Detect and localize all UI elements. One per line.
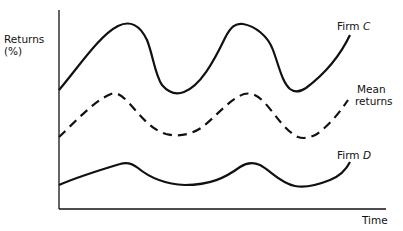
firm-c-label-prefix: Firm	[337, 20, 363, 32]
y-axis-label-line1: Returns	[4, 33, 44, 45]
firm-d-label-prefix: Firm	[337, 149, 363, 161]
mean-returns-label-line2: returns	[355, 95, 393, 107]
firm-d-label-letter: D	[363, 149, 371, 161]
firm-c-label-letter: C	[363, 20, 370, 32]
firm-c-label: Firm C	[337, 20, 370, 32]
x-axis-label: Time	[362, 214, 388, 226]
firm-d-curve	[59, 162, 350, 187]
firm-d-label: Firm D	[337, 149, 371, 161]
mean-returns-curve	[59, 93, 348, 138]
chart-canvas	[0, 0, 403, 231]
y-axis-label-line2: (%)	[4, 45, 44, 57]
firm-c-curve	[59, 24, 350, 94]
y-axis-label: Returns (%)	[4, 33, 44, 57]
mean-returns-label-line1: Mean	[355, 83, 393, 95]
mean-returns-label: Mean returns	[355, 83, 393, 107]
